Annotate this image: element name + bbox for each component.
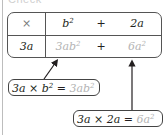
callout-3a-times-2a: 3a × 2a = 6a2 xyxy=(73,110,163,127)
arrow-to-3ab-squared-icon xyxy=(44,62,56,79)
callout-3a-times-b-squared: 3a × b2 = 3ab2 xyxy=(8,79,100,96)
